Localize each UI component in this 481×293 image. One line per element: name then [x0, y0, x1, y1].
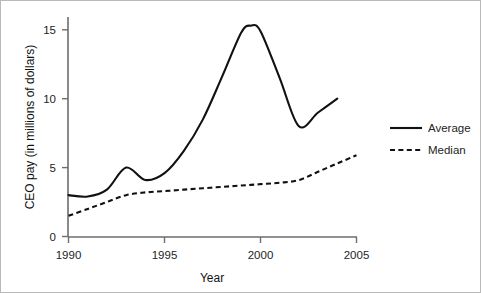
- legend-label-median: Median: [428, 144, 466, 156]
- x-tick-label-1990: 1990: [56, 249, 82, 261]
- x-tick-label-2005: 2005: [344, 249, 370, 261]
- series-line-average: [69, 25, 338, 197]
- y-tick-label-10: 10: [43, 93, 56, 105]
- y-tick-label-15: 15: [43, 24, 56, 36]
- line-chart-canvas: 0 5 10 15 1990 1995 2000 2005 Year CEO p…: [1, 1, 481, 293]
- x-axis-ticks: [69, 237, 357, 243]
- y-axis-title: CEO pay (in millions of dollars): [23, 45, 37, 210]
- x-tick-label-1995: 1995: [152, 249, 178, 261]
- chart-legend: Average Median: [390, 122, 471, 156]
- chart-figure: 0 5 10 15 1990 1995 2000 2005 Year CEO p…: [0, 0, 481, 293]
- y-tick-label-5: 5: [50, 162, 56, 174]
- legend-label-average: Average: [428, 122, 471, 134]
- x-tick-label-2000: 2000: [248, 249, 274, 261]
- y-axis-ticks: [62, 30, 68, 237]
- x-axis-title: Year: [200, 271, 224, 285]
- y-tick-label-0: 0: [50, 231, 56, 243]
